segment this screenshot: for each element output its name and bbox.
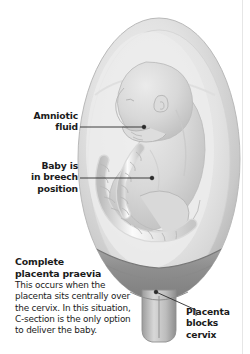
caption-title: Complete placenta praevia [15, 256, 133, 279]
illustration-figure: Amniotic fluid Baby is in breech positio… [0, 0, 250, 354]
leader-breech-dot [150, 176, 154, 180]
cervix [130, 290, 188, 342]
leader-amniotic-dot [142, 125, 146, 129]
caption-body: This occurs when the placenta sits centr… [15, 280, 133, 336]
caption-block: Complete placenta praevia This occurs wh… [15, 256, 133, 336]
label-baby-breech: Baby is in breech position [2, 160, 78, 194]
leader-placenta-cervix-dot [154, 290, 158, 294]
label-placenta-blocks-cervix: Placenta blocks cervix [186, 306, 246, 340]
label-amniotic-fluid: Amniotic fluid [6, 110, 78, 133]
